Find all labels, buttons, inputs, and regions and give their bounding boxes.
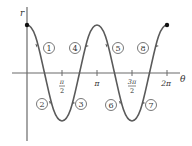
tick-label-pi: π: [94, 79, 101, 88]
segment-label-8: 8: [138, 43, 149, 54]
segment-label-4: 4: [70, 43, 81, 54]
segment-label-2: 2: [37, 99, 48, 110]
polar-graph-cartesian: r θ π 2 π 3π 2 2π 1 2 3 4 5 6: [0, 0, 192, 146]
tick-label-2pi: 2π: [160, 79, 172, 88]
start-point-dot: [25, 23, 29, 27]
tick-label-pi-over-2-den: 2: [60, 87, 64, 95]
svg-text:1: 1: [46, 44, 51, 53]
svg-text:2: 2: [39, 100, 44, 109]
tick-label-3pi-over-2-den: 2: [130, 87, 134, 95]
svg-text:7: 7: [148, 101, 153, 110]
svg-text:3: 3: [78, 100, 83, 109]
tick-label-pi-over-2-num: π: [59, 78, 65, 86]
segment-label-1: 1: [44, 43, 55, 54]
segment-label-5: 5: [113, 43, 124, 54]
r-axis-label: r: [20, 8, 25, 18]
svg-text:8: 8: [140, 44, 145, 53]
tick-label-3pi-over-2-num: 3π: [128, 78, 137, 86]
segment-label-3: 3: [76, 99, 87, 110]
segment-label-6: 6: [106, 100, 117, 111]
svg-text:6: 6: [108, 101, 113, 110]
segment-label-7: 7: [146, 100, 157, 111]
svg-text:4: 4: [72, 44, 77, 53]
theta-axis-label: θ: [180, 74, 186, 84]
svg-text:5: 5: [115, 44, 120, 53]
end-point-dot: [165, 23, 169, 27]
